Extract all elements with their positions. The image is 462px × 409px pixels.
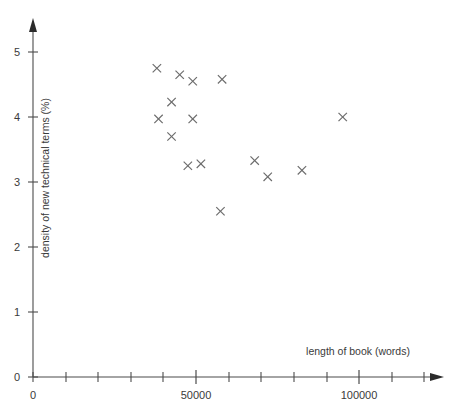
data-point-marker — [184, 162, 192, 170]
x-tick-label-50000: 50000 — [181, 389, 212, 401]
data-point-marker — [250, 156, 258, 164]
x-tick-label-0: 0 — [30, 389, 36, 401]
y-axis-arrow-icon — [29, 18, 37, 32]
data-point-marker — [189, 77, 197, 85]
y-tick-label-4: 4 — [14, 111, 20, 123]
data-point-group — [153, 64, 347, 215]
data-point-marker — [264, 173, 272, 181]
data-point-marker — [189, 115, 197, 123]
x-axis-title: length of book (words) — [306, 345, 410, 357]
scatter-plot-figure: 0 1 2 3 4 5 0 50000 100000 length of boo… — [0, 0, 462, 409]
y-tick-label-3: 3 — [14, 176, 20, 188]
data-point-marker — [154, 115, 162, 123]
x-axis-arrow-icon — [430, 373, 444, 381]
data-point-marker — [153, 64, 161, 72]
y-tick-label-0: 0 — [14, 371, 20, 383]
data-point-marker — [197, 160, 205, 168]
data-point-marker — [167, 132, 175, 140]
y-tick-label-5: 5 — [14, 46, 20, 58]
y-tick-label-2: 2 — [14, 241, 20, 253]
data-point-marker — [216, 207, 224, 215]
data-point-marker — [167, 98, 175, 106]
plot-canvas: 0 1 2 3 4 5 0 50000 100000 length of boo… — [0, 0, 462, 409]
data-point-marker — [339, 113, 347, 121]
y-axis-title: density of new technical terms (%) — [39, 98, 51, 258]
data-point-marker — [176, 71, 184, 79]
y-tick-label-1: 1 — [14, 306, 20, 318]
data-point-marker — [298, 166, 306, 174]
data-point-marker — [218, 75, 226, 83]
x-tick-label-100000: 100000 — [341, 389, 378, 401]
